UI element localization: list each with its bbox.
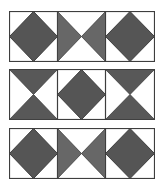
tile-diamond [105,128,154,178]
tile-hourglass-vertical [9,69,57,119]
tile-diamond [9,11,57,61]
tile-hourglass-vertical [105,69,154,119]
tile-row-3 [9,128,154,178]
tile-row-1 [9,11,154,61]
tile-diamond [57,69,105,119]
tile-hourglass-horizontal [57,11,105,61]
tile-diamond [105,11,154,61]
tile-row-2 [9,69,154,119]
tile-diamond [9,128,57,178]
tile-hourglass-horizontal [57,128,105,178]
